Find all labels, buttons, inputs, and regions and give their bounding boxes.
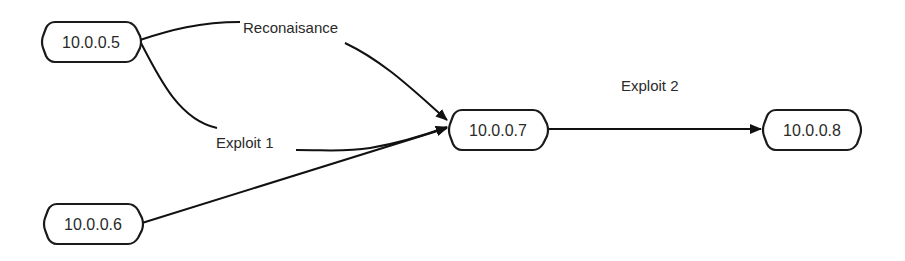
edge-10-0-0-6-to-10-0-0-7 (142, 128, 447, 223)
node-label: 10.0.0.8 (783, 122, 841, 139)
node-label: 10.0.0.6 (64, 216, 122, 233)
edge-exploit-1 (141, 43, 447, 151)
attack-graph-diagram: Reconaisance Exploit 1 Exploit 2 10.0.0.… (0, 0, 905, 261)
edge-label-exploit-1: Exploit 1 (216, 134, 274, 151)
node-10-0-0-5[interactable]: 10.0.0.5 (42, 22, 141, 62)
node-10-0-0-6[interactable]: 10.0.0.6 (44, 204, 143, 244)
node-10-0-0-7[interactable]: 10.0.0.7 (449, 110, 548, 150)
node-10-0-0-8[interactable]: 10.0.0.8 (763, 110, 861, 150)
node-label: 10.0.0.5 (62, 34, 120, 51)
edge-reconaisance (140, 22, 447, 120)
edge-label-reconaisance: Reconaisance (243, 19, 338, 36)
edge-label-exploit-2: Exploit 2 (621, 77, 679, 94)
node-label: 10.0.0.7 (469, 122, 527, 139)
